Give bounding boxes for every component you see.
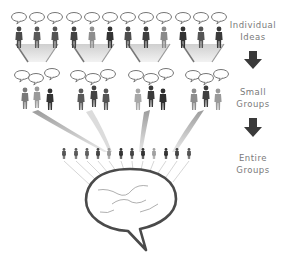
thought-bubbles-row1 [12,13,227,25]
speech-bubble-icon [86,169,176,250]
individual-ideas-row [12,13,227,63]
down-arrow-icon-2 [244,118,262,137]
label-line: Groups [221,98,285,110]
label-line: Entire [221,152,285,164]
thought-bubbles-row2 [15,69,229,86]
label-line: Ideas [221,31,285,43]
label-line: Individual [221,19,285,31]
idea-convergence-diagram: Individual Ideas Small Groups Entire Gro… [0,0,288,267]
label-individual-ideas: Individual Ideas [221,19,285,43]
small-groups-row [15,69,229,153]
funnel-shapes [16,44,224,62]
label-line: Groups [221,164,285,176]
label-line: Small [221,86,285,98]
label-entire-groups: Entire Groups [221,152,285,176]
people-row3 [62,148,191,159]
converging-streams [32,110,204,152]
label-small-groups: Small Groups [221,86,285,110]
people-row2 [21,86,221,110]
down-arrow-icon-1 [244,51,262,69]
